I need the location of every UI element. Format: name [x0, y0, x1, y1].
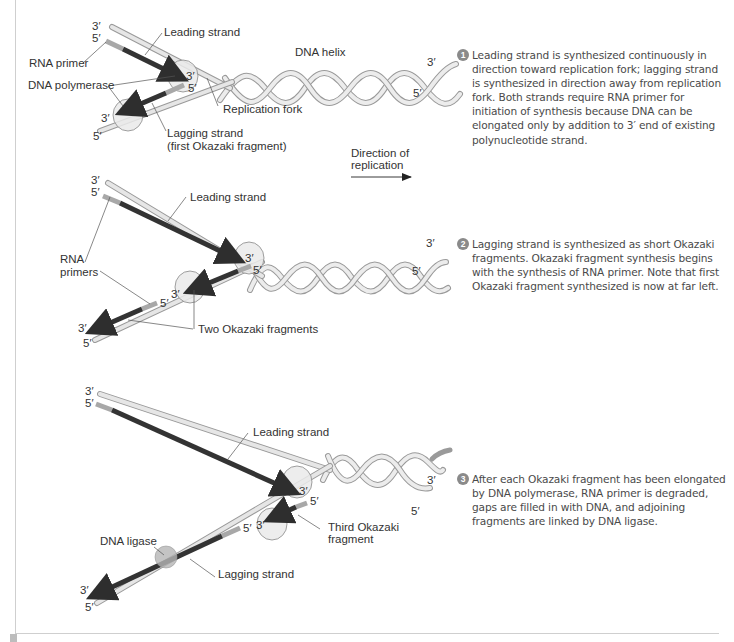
- p2-bottom-3prime: 3′: [78, 322, 87, 334]
- p1-leading-strand-label: Leading strand: [164, 26, 240, 38]
- step-1-text: Leading strand is synthesized continuous…: [472, 48, 729, 147]
- p1-lagging-strand-note: (first Okazaki fragment): [167, 140, 287, 152]
- p2-two-okazaki-label: Two Okazaki fragments: [198, 323, 318, 335]
- p2-helix-3prime: 3′: [426, 237, 435, 249]
- p1-dna-polymerase-label: DNA polymerase: [28, 79, 114, 91]
- rna-primer: [106, 41, 123, 49]
- p2-helix-5prime: 5′: [412, 265, 421, 277]
- p3-lagging-strand-label: Lagging strand: [218, 568, 294, 580]
- p2-leading-strand-label: Leading strand: [190, 191, 266, 203]
- step-3-badge: 3: [457, 473, 469, 485]
- step-2-description: 2 Lagging strand is synthesized as short…: [457, 237, 729, 293]
- step-2-badge: 2: [457, 238, 469, 250]
- p3-top-5prime: 5′: [85, 397, 94, 409]
- p2-top-3prime: 3′: [91, 174, 100, 186]
- direction-label-line1: Direction of: [351, 147, 410, 159]
- leading-strand-new: [120, 203, 237, 259]
- dna-helix: [220, 64, 460, 104]
- p1-dna-helix-label: DNA helix: [295, 46, 346, 58]
- p1-bottom-3prime: 3′: [101, 112, 110, 124]
- p1-lagging-5prime: 5′: [188, 82, 197, 94]
- rna-primer-fragment-3: [296, 503, 307, 507]
- p3-bottom-5prime: 5′: [85, 601, 94, 613]
- step-3-description: 3 After each Okazaki fragment has been e…: [457, 472, 729, 528]
- p3-leading-strand-label: Leading strand: [253, 426, 329, 438]
- step-1-description: 1 Leading strand is synthesized continuo…: [457, 48, 729, 147]
- p2-rna-primers-label-2: primers: [60, 266, 99, 278]
- p1-top-5prime: 5′: [92, 32, 101, 44]
- step-2-text: Lagging strand is synthesized as short O…: [472, 237, 729, 293]
- p3-third-okazaki-label-2: fragment: [328, 533, 374, 545]
- panel-1: 3′ 5′ Leading strand RNA primer DNA poly…: [28, 20, 460, 152]
- panel-3: 3′ 5′ Leading strand 3′ 5′ 5′ 3′ 3′ 5′ 3…: [80, 385, 450, 613]
- dna-ligase: [155, 546, 177, 568]
- p3-third-okazaki-label-1: Third Okazaki: [328, 521, 399, 533]
- panel-2: 3′ 5′ Leading strand RNA primers 3′ 5′ 5…: [60, 174, 448, 349]
- p1-leading-3prime: 3′: [186, 70, 195, 82]
- leading-strand-new: [123, 49, 180, 77]
- step-1-badge: 1: [457, 49, 469, 61]
- p1-replication-fork-label: Replication fork: [223, 103, 303, 115]
- p3-helix-5prime: 5′: [411, 505, 420, 517]
- p3-leading-3prime: 3′: [299, 485, 308, 497]
- p1-helix-5prime: 5′: [413, 87, 422, 99]
- p2-bottom-5prime: 5′: [83, 337, 92, 349]
- p3-fragment-3prime: 3′: [256, 519, 265, 531]
- p1-bottom-5prime: 5′: [93, 130, 102, 142]
- p2-top-5prime: 5′: [91, 186, 100, 198]
- p1-lagging-strand-label: Lagging strand: [167, 127, 243, 139]
- p3-bottom-3prime: 3′: [80, 584, 89, 596]
- p2-leading-3prime: 3′: [245, 252, 254, 264]
- p3-helix-3prime: 3′: [427, 474, 436, 486]
- p3-fragment-5prime: 5′: [243, 522, 252, 534]
- rna-primer-leading: [96, 404, 112, 410]
- p1-top-3prime: 3′: [92, 20, 101, 32]
- p2-lagging-5prime: 5′: [253, 264, 262, 276]
- step-3-text: After each Okazaki fragment has been elo…: [472, 472, 729, 528]
- p2-rna-primers-label-1: RNA: [60, 253, 85, 265]
- direction-of-replication: Direction of replication: [351, 147, 411, 177]
- p1-helix-3prime: 3′: [427, 56, 436, 68]
- p2-fragment-5prime: 5′: [160, 297, 169, 309]
- p3-dna-ligase-label: DNA ligase: [100, 535, 157, 547]
- rna-primer-leading: [103, 196, 120, 203]
- p2-fragment-3prime: 3′: [171, 288, 180, 300]
- p3-top-3prime: 3′: [85, 385, 94, 397]
- p3-lagging-5prime: 5′: [310, 495, 319, 507]
- p1-rna-primer-label: RNA primer: [29, 57, 89, 69]
- direction-label-line2: replication: [351, 159, 403, 171]
